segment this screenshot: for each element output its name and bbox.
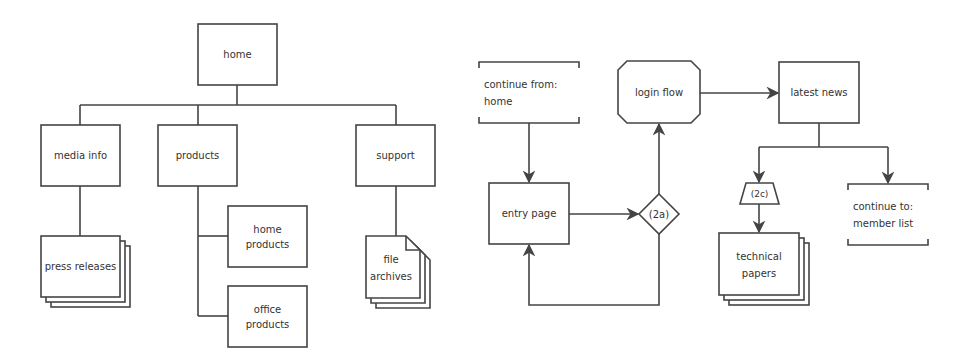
page-products-label: products xyxy=(176,150,220,161)
condition-2c-label: (2c) xyxy=(751,189,769,199)
page-home[interactable]: home xyxy=(198,24,277,85)
page-office-products[interactable]: office products xyxy=(228,286,307,347)
page-stack-press-releases[interactable]: press releases xyxy=(41,236,130,307)
connector-continue-to-member-list[interactable]: continue to: member list xyxy=(848,184,928,245)
continue-to-line1: continue to: xyxy=(853,201,913,212)
page-press-releases-label: press releases xyxy=(45,261,117,272)
continue-from-line1: continue from: xyxy=(484,79,557,90)
page-home-products-line2: products xyxy=(246,239,290,250)
page-office-products-line2: products xyxy=(246,319,290,330)
page-home-label: home xyxy=(223,49,251,60)
continue-from-line2: home xyxy=(484,96,512,107)
page-media-info[interactable]: media info xyxy=(41,125,120,186)
page-office-products-line1: office xyxy=(254,304,281,315)
diagram-canvas: home media info products support press r… xyxy=(0,0,963,364)
page-home-products[interactable]: home products xyxy=(228,206,307,267)
page-support[interactable]: support xyxy=(356,125,435,186)
page-support-label: support xyxy=(376,150,414,161)
page-entry-page[interactable]: entry page xyxy=(489,183,569,244)
page-products[interactable]: products xyxy=(158,125,237,186)
flow-diagram: continue from: home entry page (2a) logi… xyxy=(479,61,928,305)
flow-connectors xyxy=(529,93,888,305)
process-login-flow[interactable]: login flow xyxy=(618,61,700,123)
document-file-archives-line1: file xyxy=(383,254,398,265)
document-file-archives-line2: archives xyxy=(370,271,412,282)
document-stack-file-archives[interactable]: file archives xyxy=(366,236,430,308)
page-technical-papers-line1: technical xyxy=(736,251,781,262)
page-entry-page-label: entry page xyxy=(502,208,557,219)
decision-2a-label: (2a) xyxy=(649,209,669,220)
page-media-info-label: media info xyxy=(54,150,107,161)
connector-continue-from-home[interactable]: continue from: home xyxy=(479,62,579,123)
page-home-products-line1: home xyxy=(253,224,281,235)
page-technical-papers-line2: papers xyxy=(742,268,776,279)
continue-to-line2: member list xyxy=(853,218,913,229)
page-latest-news-label: latest news xyxy=(790,87,847,98)
diagram-svg: home media info products support press r… xyxy=(0,0,963,364)
page-latest-news[interactable]: latest news xyxy=(779,62,859,123)
sitemap-diagram: home media info products support press r… xyxy=(41,24,435,347)
decision-2a[interactable]: (2a) xyxy=(639,194,679,234)
process-login-flow-label: login flow xyxy=(635,87,683,98)
condition-2c[interactable]: (2c) xyxy=(740,183,779,204)
page-stack-technical-papers[interactable]: technical papers xyxy=(719,233,809,305)
